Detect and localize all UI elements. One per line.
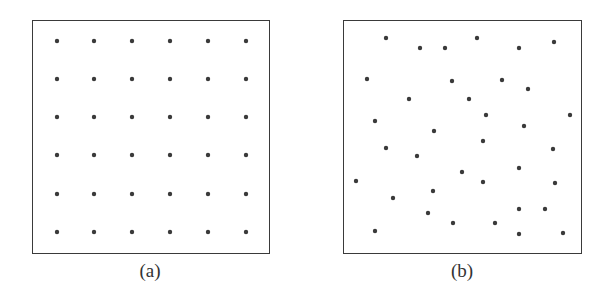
dot <box>460 170 464 174</box>
dot <box>432 129 436 133</box>
dot <box>92 39 96 43</box>
dot <box>517 232 521 236</box>
dot <box>244 39 248 43</box>
dot <box>168 192 172 196</box>
dot <box>55 39 59 43</box>
dot <box>55 230 59 234</box>
dot <box>500 78 504 82</box>
dot <box>55 153 59 157</box>
dot <box>443 46 447 50</box>
dot <box>244 153 248 157</box>
dot <box>493 221 497 225</box>
dot <box>206 39 210 43</box>
dot <box>244 230 248 234</box>
dot <box>475 36 479 40</box>
dot <box>244 115 248 119</box>
dot <box>92 115 96 119</box>
dot <box>450 79 454 83</box>
dot <box>426 211 430 215</box>
dot <box>130 153 134 157</box>
dot <box>168 77 172 81</box>
dot <box>92 153 96 157</box>
dot <box>206 192 210 196</box>
dot <box>130 230 134 234</box>
dot <box>551 147 555 151</box>
dot <box>130 39 134 43</box>
dot <box>168 153 172 157</box>
dot <box>206 115 210 119</box>
dot <box>365 77 369 81</box>
dot <box>92 192 96 196</box>
dot <box>451 221 455 225</box>
dot <box>206 153 210 157</box>
dot <box>130 115 134 119</box>
dot <box>484 113 488 117</box>
dot <box>552 40 556 44</box>
dot <box>517 46 521 50</box>
dot <box>354 179 358 183</box>
dot <box>415 154 419 158</box>
dot <box>92 77 96 81</box>
dot <box>568 113 572 117</box>
dot <box>244 77 248 81</box>
dot <box>384 146 388 150</box>
dot-layer <box>0 0 612 304</box>
dot <box>481 180 485 184</box>
dot <box>168 39 172 43</box>
dot <box>561 231 565 235</box>
dot <box>517 166 521 170</box>
dot <box>55 115 59 119</box>
dot <box>168 115 172 119</box>
dot <box>467 97 471 101</box>
dot <box>55 77 59 81</box>
dot <box>431 189 435 193</box>
dot <box>373 229 377 233</box>
dot <box>517 207 521 211</box>
dot <box>526 87 530 91</box>
dot <box>373 119 377 123</box>
dot <box>130 77 134 81</box>
dot <box>168 230 172 234</box>
dot <box>418 46 422 50</box>
dot <box>244 192 248 196</box>
dot <box>206 230 210 234</box>
dot <box>553 181 557 185</box>
dot <box>391 196 395 200</box>
dot <box>481 139 485 143</box>
dot <box>522 124 526 128</box>
dot <box>92 230 96 234</box>
dot <box>55 192 59 196</box>
dot <box>206 77 210 81</box>
dot <box>543 207 547 211</box>
dot <box>407 97 411 101</box>
dot <box>130 192 134 196</box>
dot <box>384 36 388 40</box>
